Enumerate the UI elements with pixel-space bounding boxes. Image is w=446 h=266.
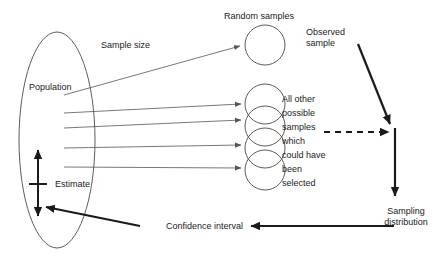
- observed-sample-label-line2: sample: [306, 38, 335, 49]
- possible-sample-circle-1: [245, 84, 285, 124]
- all-other-samples-line3: samples: [282, 122, 316, 133]
- arrow-population-to-observed-sample: [64, 46, 240, 95]
- arrow-population-to-possible-2: [64, 120, 241, 128]
- all-other-samples-line6: been: [282, 164, 302, 175]
- population-label: Population: [29, 82, 72, 93]
- confidence-interval-label: Confidence interval: [166, 221, 243, 232]
- sampling-distribution-line2: distribution: [375, 217, 437, 228]
- possible-sample-circle-2: [245, 106, 285, 146]
- sample-size-label: Sample size: [101, 40, 150, 51]
- all-other-samples-line1: All other: [282, 94, 315, 105]
- all-other-samples-line4: which: [282, 136, 305, 147]
- sampling-diagram: Population Sample size Random samples Ob…: [0, 0, 446, 266]
- arrow-population-to-possible-4: [64, 167, 241, 168]
- arrow-population-to-possible-1: [64, 104, 241, 113]
- sampling-distribution-line1: Sampling: [375, 206, 437, 217]
- arrow-population-to-possible-3: [64, 145, 241, 148]
- all-other-samples-line5: could have: [282, 150, 326, 161]
- arrow-confidence-interval-to-estimate: [46, 207, 140, 226]
- random-samples-label: Random samples: [224, 11, 294, 22]
- arrow-observed-sample-to-sampling-point: [358, 44, 390, 124]
- estimate-label: Estimate: [55, 179, 90, 190]
- possible-sample-circle-4: [245, 150, 285, 190]
- all-other-samples-line7: selected: [282, 178, 316, 189]
- possible-sample-circle-3: [245, 128, 285, 168]
- observed-sample-label-line1: Observed: [306, 27, 345, 38]
- all-other-samples-line2: possible: [282, 108, 315, 119]
- random-sample-circle: [245, 25, 285, 65]
